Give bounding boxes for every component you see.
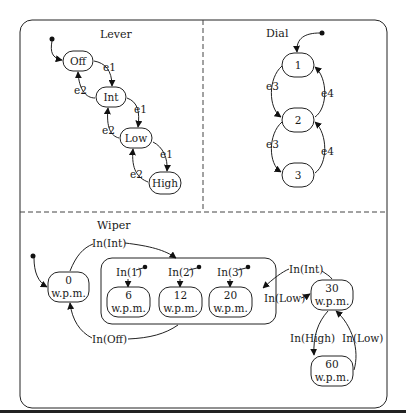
statechart-diagram: Lever Off Int Low High e1 e1 e1 e2 e2 e2… <box>0 0 406 418</box>
lever-event-e1: e1 <box>134 103 147 115</box>
dial-title: Dial <box>266 27 289 40</box>
lever-state-int-label: Int <box>103 91 119 103</box>
wiper-state-30-unit: w.p.m. <box>315 371 349 383</box>
lever-event-e2: e2 <box>102 124 115 136</box>
dial-event-e3: e3 <box>266 138 279 150</box>
lever-region: Lever Off Int Low High e1 e1 e1 e2 e2 e2 <box>50 28 182 194</box>
wiper-init-dot <box>143 265 148 270</box>
wiper-event-in-low-right: In(Low) <box>342 332 383 344</box>
wiper-event-in-off: In(Off) <box>92 333 127 345</box>
wiper-title: Wiper <box>97 219 131 232</box>
wiper-state-20-value: 20 <box>224 289 237 301</box>
wiper-state-0-value: 0 <box>65 274 72 286</box>
wiper-state-30-value: 30 <box>325 282 338 294</box>
wiper-state-20-unit: w.p.m. <box>213 302 247 314</box>
wiper-state-0-unit: w.p.m. <box>51 287 85 299</box>
dial-region: Dial 1 2 3 e3 e3 e4 e4 <box>266 27 334 187</box>
wiper-state-6-unit: w.p.m. <box>111 302 145 314</box>
wiper-event-in-high: In(High) <box>290 332 335 344</box>
lever-title: Lever <box>100 28 133 41</box>
dial-event-e4: e4 <box>321 145 334 157</box>
wiper-event-in-2: In(2) <box>168 266 194 278</box>
wiper-region: Wiper 0 w.p.m. In(Int) In(Off) In(1) 6 w… <box>31 219 384 386</box>
dial-event-e3: e3 <box>266 80 279 92</box>
wiper-state-60-value: 60 <box>325 358 338 370</box>
wiper-init-dot <box>246 265 251 270</box>
lever-event-e2: e2 <box>74 84 87 96</box>
dial-initial-dot <box>320 31 325 36</box>
wiper-state-12-unit: w.p.m. <box>163 302 197 314</box>
lever-state-off-label: Off <box>70 55 88 67</box>
wiper-initial-dot <box>31 254 36 259</box>
wiper-state-30-unit: w.p.m. <box>315 295 349 307</box>
wiper-event-in-1: In(1) <box>116 266 142 278</box>
wiper-arrow-int-top-a <box>70 244 93 271</box>
wiper-state-6-value: 6 <box>125 289 132 301</box>
dial-state-1-label: 1 <box>295 59 302 71</box>
wiper-arrow-off-a <box>128 325 178 339</box>
lever-state-low-label: Low <box>125 132 147 144</box>
wiper-event-in-int-right: In(Int) <box>289 263 323 275</box>
lever-initial-dot <box>50 37 55 42</box>
wiper-event-in-3: In(3) <box>217 266 243 278</box>
wiper-arrow-off-b <box>70 303 92 338</box>
wiper-arrow-int-right-a <box>322 271 332 279</box>
lever-event-e1: e1 <box>160 148 173 160</box>
wiper-event-in-low-left: In(Low) <box>264 292 305 304</box>
lever-state-high-label: High <box>152 177 178 189</box>
lever-initial-arrow <box>51 41 62 60</box>
wiper-initial-arrow <box>34 258 47 287</box>
bottom-rule <box>0 410 406 413</box>
dial-state-2-label: 2 <box>295 114 302 126</box>
wiper-state-12-value: 12 <box>174 289 187 301</box>
lever-event-e2: e2 <box>130 168 143 180</box>
dial-state-3-label: 3 <box>295 169 302 181</box>
wiper-init-dot <box>197 265 202 270</box>
lever-event-e1: e1 <box>103 61 116 73</box>
wiper-event-in-int: In(Int) <box>92 237 126 249</box>
dial-initial-arrow <box>297 33 320 52</box>
wiper-arrow-int-top-b <box>125 243 176 258</box>
dial-event-e4: e4 <box>321 87 334 99</box>
